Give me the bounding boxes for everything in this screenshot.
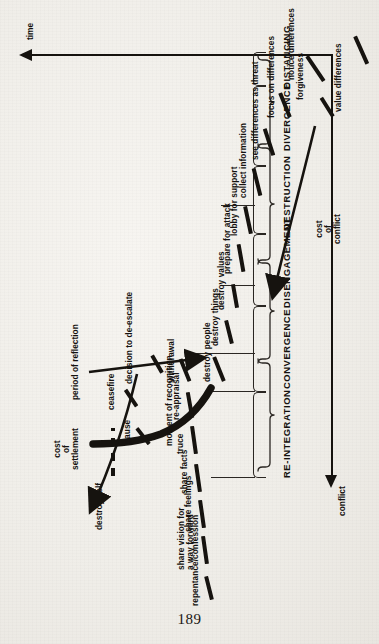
cost-of-settlement-line-3: settlement xyxy=(69,428,79,470)
page-number: 189 xyxy=(0,611,379,628)
cost-of-settlement-arrow-group xyxy=(15,0,365,596)
cost-of-settlement-arrow xyxy=(91,374,137,510)
figure-container: conflict time xyxy=(0,0,379,644)
conflict-escalation-diagram: conflict time xyxy=(15,0,365,596)
annotation-cost-of-settlement: cost of settlement xyxy=(53,428,79,470)
